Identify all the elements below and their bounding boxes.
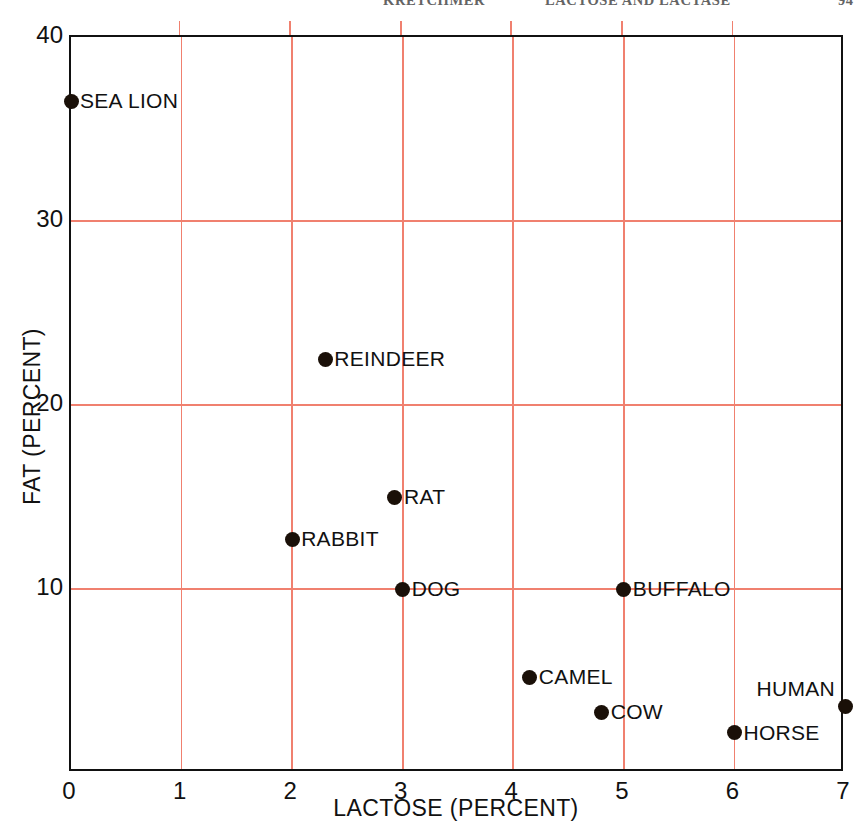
y-tick-label-40: 40 [36, 21, 63, 49]
data-point-label-buffalo: BUFFALO [633, 577, 731, 601]
gridline-x-4 [512, 37, 514, 769]
scatter-chart: SEA LIONREINDEERRATRABBITDOGBUFFALOCAMEL… [0, 0, 864, 831]
data-point-label-horse: HORSE [743, 721, 819, 745]
data-point-label-sea-lion: SEA LION [80, 89, 178, 113]
data-point-marker-rat [387, 490, 402, 505]
tick-stub-top-4 [510, 21, 512, 35]
data-point-label-camel: CAMEL [539, 665, 613, 689]
data-point-label-cow: COW [611, 700, 663, 724]
data-point-label-dog: DOG [412, 577, 461, 601]
data-point-marker-buffalo [616, 582, 631, 597]
data-point-marker-horse [727, 725, 742, 740]
data-point-label-rat: RAT [404, 485, 445, 509]
tick-stub-top-2 [289, 21, 291, 35]
y-tick-label-30: 30 [36, 205, 63, 233]
data-point-marker-sea-lion [64, 94, 79, 109]
plot-frame: SEA LIONREINDEERRATRABBITDOGBUFFALOCAMEL… [69, 35, 843, 771]
tick-stub-top-5 [621, 21, 623, 35]
tick-stub-top-1 [179, 21, 181, 35]
data-point-label-rabbit: RABBIT [301, 527, 379, 551]
gridline-x-2 [291, 37, 293, 769]
y-tick-label-10: 10 [36, 573, 63, 601]
y-axis-title: FAT (PERCENT) [19, 257, 46, 577]
tick-stub-top-3 [400, 21, 402, 35]
data-point-marker-human [838, 699, 853, 714]
tick-stub-top-6 [732, 21, 734, 35]
gridline-x-5 [623, 37, 625, 769]
data-point-label-reindeer: REINDEER [334, 347, 445, 371]
x-axis-title: LACTOSE (PERCENT) [69, 795, 843, 822]
data-point-marker-dog [395, 582, 410, 597]
data-point-marker-reindeer [318, 352, 333, 367]
gridline-x-6 [734, 37, 736, 769]
data-point-label-human: HUMAN [757, 677, 836, 701]
data-point-marker-rabbit [285, 532, 300, 547]
gridline-y-30 [71, 220, 841, 222]
gridline-x-1 [181, 37, 183, 769]
data-point-marker-cow [594, 705, 609, 720]
gridline-x-3 [402, 37, 404, 769]
gridline-y-20 [71, 404, 841, 406]
data-point-marker-camel [522, 670, 537, 685]
